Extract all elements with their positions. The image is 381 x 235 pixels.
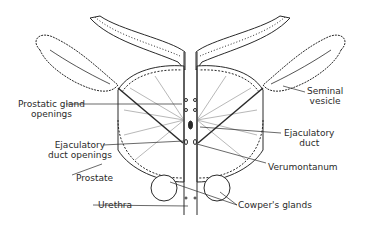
label-cowpers-glands: Cowper's glands — [238, 200, 312, 210]
label-line: Seminal — [307, 86, 343, 96]
label-line: duct openings — [48, 150, 112, 160]
label-urethra: Urethra — [98, 200, 132, 210]
label-line: Ejaculatory — [284, 128, 334, 138]
label-ejaculatory-duct-openings: Ejaculatory duct openings — [48, 140, 112, 160]
label-prostatic-gland-openings: Prostatic gland openings — [18, 99, 85, 119]
seminal-vesicle-left — [36, 35, 118, 91]
bladder — [90, 16, 290, 70]
label-prostate: Prostate — [76, 173, 113, 183]
label-line: openings — [18, 109, 85, 119]
label-line: Prostatic gland — [18, 99, 85, 109]
label-verumontanum: Verumontanum — [268, 162, 338, 172]
cowpers-gland-left — [151, 175, 177, 201]
label-ejaculatory-duct: Ejaculatory duct — [284, 128, 334, 148]
anatomy-diagram: Prostatic gland openings Ejaculatory duc… — [0, 0, 381, 235]
label-line: Ejaculatory — [48, 140, 112, 150]
label-line: duct — [284, 138, 334, 148]
label-line: vesicle — [307, 96, 343, 106]
seminal-vesicle-right — [263, 35, 345, 91]
label-seminal-vesicle: Seminal vesicle — [307, 86, 343, 106]
